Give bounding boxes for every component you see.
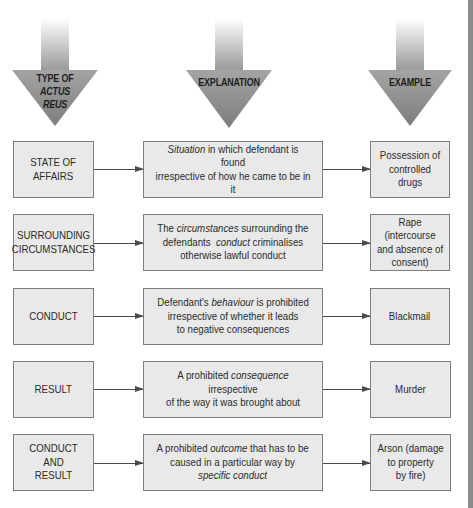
page-edge-bar (468, 0, 473, 508)
connector-arrow (323, 389, 370, 390)
example-box-result: Murder (370, 361, 451, 418)
type-line: RESULT (35, 383, 72, 395)
type-box-surrounding-circumstances: SURROUNDINGCIRCUMSTANCES (13, 214, 94, 271)
type-line: RESULT (35, 469, 72, 481)
explanation-text: A prohibited consequence irrespectiveof … (155, 369, 312, 410)
explanation-text: Defendant's behaviour is prohibitedirres… (157, 296, 308, 337)
type-box-result: RESULT (13, 361, 94, 418)
connector-arrow (94, 169, 143, 170)
example-line: by fire) (396, 469, 426, 481)
type-line: AFFAIRS (33, 170, 73, 182)
example-line: and absence of (377, 243, 443, 255)
type-line: STATE OF (31, 156, 77, 168)
explanation-box-conduct-and-result: A prohibited outcome that has to because… (143, 434, 323, 491)
example-line: Blackmail (389, 310, 430, 322)
example-line: to property (387, 456, 433, 468)
type-line: CIRCUMSTANCES (12, 243, 96, 255)
example-box-conduct-and-result: Arson (damageto propertyby fire) (370, 434, 451, 491)
down-arrow-icon (186, 18, 272, 128)
explanation-box-state-of-affairs: Situation in which defendant is foundirr… (143, 141, 323, 198)
type-box-conduct-and-result: CONDUCT ANDRESULT (13, 434, 94, 491)
explanation-box-result: A prohibited consequence irrespectiveof … (143, 361, 323, 418)
connector-arrow (94, 243, 143, 244)
explanation-text: The circumstances surrounding thedefenda… (157, 222, 308, 263)
type-box-conduct: CONDUCT (13, 288, 94, 345)
connector-arrow (94, 316, 143, 317)
connector-arrow (323, 169, 370, 170)
explanation-box-conduct: Defendant's behaviour is prohibitedirres… (143, 288, 323, 345)
example-line: controlled drugs (389, 163, 431, 189)
type-line: CONDUCT AND (29, 442, 77, 468)
down-arrow-icon (368, 18, 452, 126)
explanation-text: A prohibited outcome that has to because… (157, 442, 309, 483)
header-type-line3: REUS (18, 98, 91, 111)
connector-arrow (323, 243, 370, 244)
type-line: CONDUCT (29, 310, 77, 322)
connector-arrow (94, 389, 143, 390)
type-line: SURROUNDING (17, 229, 90, 241)
header-type-line1: TYPE OF (18, 72, 91, 85)
explanation-text: Situation in which defendant is foundirr… (155, 143, 312, 197)
example-line: consent) (391, 256, 428, 268)
example-line: Possession of (380, 149, 440, 161)
type-box-state-of-affairs: STATE OFAFFAIRS (13, 141, 94, 198)
explanation-box-surrounding-circumstances: The circumstances surrounding thedefenda… (143, 214, 323, 271)
example-line: Murder (395, 383, 426, 395)
header-type-line2: ACTUS (18, 85, 91, 98)
header-example: EXAMPLE (374, 76, 445, 89)
example-box-surrounding-circumstances: Rape (intercourseand absence ofconsent) (370, 214, 450, 271)
header-explanation: EXPLANATION (192, 76, 265, 89)
header-arrow-explanation: EXPLANATION (186, 18, 272, 128)
example-box-conduct: Blackmail (370, 288, 450, 345)
connector-arrow (323, 463, 370, 464)
example-box-state-of-affairs: Possession ofcontrolled drugs (370, 141, 450, 198)
example-line: Rape (intercourse (384, 216, 435, 242)
header-arrow-type: TYPE OF ACTUS REUS (12, 18, 98, 126)
header-arrow-example: EXAMPLE (368, 18, 452, 126)
example-line: Arson (damage (377, 442, 443, 454)
connector-arrow (323, 316, 370, 317)
connector-arrow (94, 463, 143, 464)
